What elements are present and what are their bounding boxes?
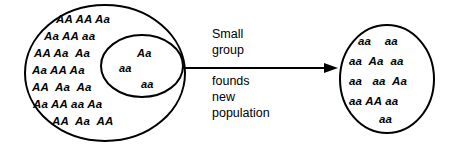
source-genotype-row: AA Aa AA — [52, 115, 113, 127]
founder-genotype: Aa — [137, 47, 151, 59]
founder-genotype: aa — [141, 78, 154, 90]
source-genotype-row: Aa AA aa Aa — [33, 98, 102, 110]
caption-new: new — [212, 90, 235, 105]
source-genotype-row: Aa AA Aa — [32, 64, 85, 76]
caption-group: group — [212, 43, 244, 58]
founder-effect-figure: AA AA Aa Aa AA aa AA Aa Aa Aa AA Aa AA A… — [0, 0, 454, 150]
source-genotype-row: AA Aa Aa — [34, 47, 90, 59]
new-genotype-row: aa aa Aa — [349, 75, 407, 87]
new-genotype-row: aa Aa aa — [349, 55, 404, 67]
caption-founds: founds — [212, 74, 250, 89]
new-genotype-row: aa aa — [358, 35, 398, 47]
new-genotype-row: aa — [379, 113, 392, 125]
caption-small: Small — [212, 27, 243, 42]
source-genotype-row: AA AA Aa — [56, 13, 110, 25]
caption-population: population — [212, 106, 270, 121]
founder-arrow-head — [324, 63, 338, 73]
source-genotype-row: AA Aa Aa — [32, 81, 92, 93]
source-genotype-row: Aa AA aa — [44, 30, 95, 42]
new-genotype-row: aa AA aa — [349, 95, 398, 107]
founder-genotype: aa — [119, 62, 132, 74]
